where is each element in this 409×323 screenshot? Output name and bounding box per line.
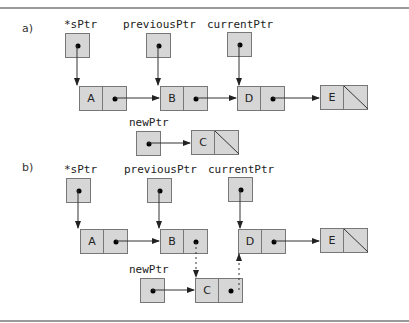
arrows-layer — [0, 0, 409, 323]
